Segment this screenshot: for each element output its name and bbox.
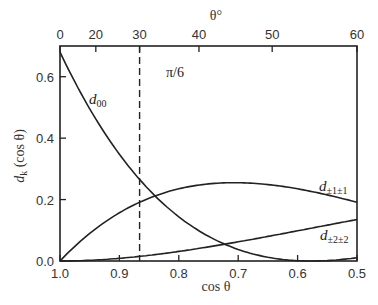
chart: 0.00.20.40.6 1.00.90.80.70.60.5 02030405…: [0, 0, 378, 305]
d11-label: d±1±1: [319, 178, 347, 196]
x2-tick-label: 20: [89, 27, 103, 42]
d22-label: d±2±2: [320, 227, 348, 245]
y-axis-title: dk (cos θ): [12, 129, 29, 183]
curve-d±1±1: [60, 183, 357, 261]
y-tick-label: 0.6: [36, 70, 54, 85]
x2-tick-label: 40: [192, 27, 206, 42]
y-axis: 0.00.20.40.6: [36, 70, 66, 269]
pi-over-6-label: π/6: [166, 65, 184, 80]
x-axis-title: cos θ: [202, 279, 231, 294]
x-tick-label: 0.7: [229, 266, 247, 281]
x-tick-label: 1.0: [51, 266, 69, 281]
x2-tick-label: 30: [132, 27, 146, 42]
x2-tick-label: 50: [265, 27, 279, 42]
x-tick-label: 0.9: [110, 266, 128, 281]
x-tick-label: 0.8: [170, 266, 188, 281]
x2-axis-title: θ°: [210, 8, 222, 23]
y-tick-label: 0.4: [36, 131, 54, 146]
x-axis-bottom: 1.00.90.80.70.60.5: [51, 255, 366, 281]
curve-d00: [60, 52, 357, 261]
x-tick-label: 0.5: [348, 266, 366, 281]
d00-label: d00: [89, 91, 107, 109]
curves: [60, 52, 357, 261]
x-axis-top: 02030405060: [56, 27, 364, 52]
curve-d±2±2: [60, 220, 357, 262]
x2-tick-label: 60: [350, 27, 364, 42]
y-tick-label: 0.2: [36, 193, 54, 208]
x-tick-label: 0.6: [289, 266, 307, 281]
x2-tick-label: 0: [56, 27, 63, 42]
